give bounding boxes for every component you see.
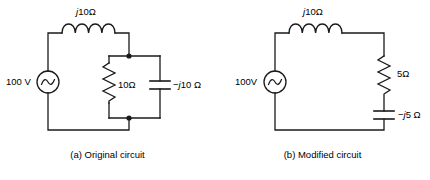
caption-modified-circuit: (b) Modified circuit [215,149,430,160]
wire-a-bottom-return [48,93,129,130]
node-dot-a-top [126,53,131,58]
inductor-a-coil [62,24,115,33]
capacitor-b-label-value: 5 Ω [406,109,421,120]
capacitor-a-label-value: 10 Ω [181,79,201,90]
circuit-figure: j10Ω 100 V 10Ω −j10 Ω (a) Original circu… [0,0,430,180]
caption-original-circuit: (a) Original circuit [0,149,215,160]
wire-b-top-right [342,33,384,56]
capacitor-b-label: −j5 Ω [398,110,421,120]
source-b-label: 100V [235,77,257,87]
inductor-a-label-value: 10Ω [78,6,96,17]
wire-a-top-right [115,33,129,56]
node-dot-a-bottom [126,115,131,120]
wire-b-top-left [275,33,289,71]
source-a-label: 100 V [6,77,31,87]
resistor-b-zigzag [378,56,390,111]
wire-b-bottom-return [275,93,384,130]
inductor-b-label: j10Ω [303,7,323,17]
source-a-sine-glyph [42,80,55,85]
resistor-a-zigzag [103,63,115,103]
wire-a-top-left [48,33,62,71]
source-b-sine-glyph [269,80,282,85]
capacitor-a-label: −j10 Ω [173,80,201,90]
resistor-b-label: 5Ω [397,69,409,79]
resistor-a-label: 10Ω [118,80,136,90]
inductor-b-coil [289,24,342,33]
inductor-b-label-value: 10Ω [305,6,323,17]
inductor-a-label: j10Ω [76,7,96,17]
